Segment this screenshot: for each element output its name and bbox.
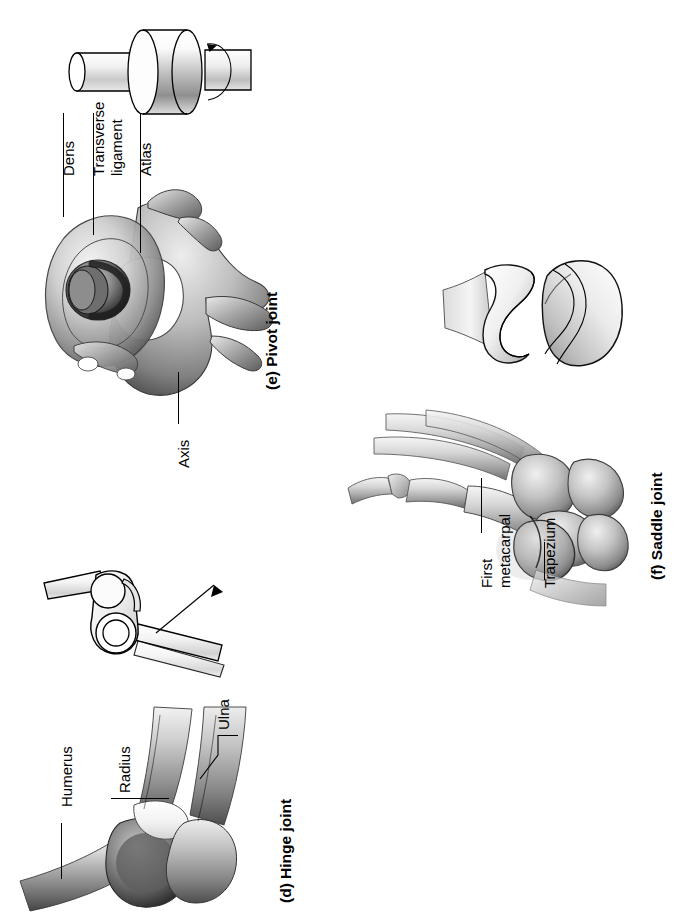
label-first-metacarpal-line1: First bbox=[479, 559, 496, 588]
leader-line-first-metacarpal bbox=[481, 478, 482, 533]
label-transverse-ligament-line1: Transverse bbox=[91, 102, 108, 176]
label-transverse-ligament-line2: ligament bbox=[109, 119, 126, 176]
pivot-specimen-vertebrae bbox=[30, 178, 280, 408]
label-first-metacarpal-line2: metacarpal bbox=[497, 514, 514, 588]
label-axis: Axis bbox=[176, 440, 193, 468]
caption-pivot-joint: (e) Pivot joint bbox=[263, 292, 280, 390]
hinge-schematic bbox=[38, 565, 238, 695]
figure-canvas: Dens Transverse ligament Atlas Axis (e) … bbox=[0, 0, 679, 919]
label-trapezium: Trapezium bbox=[542, 518, 559, 588]
leader-line-ulna-bend bbox=[200, 735, 240, 791]
caption-saddle-joint: (f) Saddle joint bbox=[648, 472, 665, 580]
pivot-schematic bbox=[55, 8, 270, 118]
label-dens: Dens bbox=[61, 141, 78, 176]
label-humerus: Humerus bbox=[59, 746, 76, 807]
saddle-specimen-hand bbox=[330, 410, 630, 625]
label-atlas: Atlas bbox=[138, 143, 155, 176]
leader-line-atlas bbox=[140, 113, 141, 253]
panel-pivot-joint: Dens Transverse ligament Atlas Axis (e) … bbox=[0, 0, 340, 500]
leader-line-axis bbox=[178, 372, 179, 424]
leader-line-humerus bbox=[61, 823, 62, 879]
leader-line-radius bbox=[111, 798, 169, 799]
label-radius: Radius bbox=[117, 746, 134, 793]
caption-hinge-joint: (d) Hinge joint bbox=[277, 799, 294, 903]
saddle-schematic bbox=[435, 228, 645, 403]
label-ulna: Ulna bbox=[216, 699, 233, 730]
panel-saddle-joint: First metacarpal Trapezium (f) Saddle jo… bbox=[330, 220, 679, 690]
panel-hinge-joint: Humerus Radius Ulna (d) Hinge joint bbox=[0, 555, 340, 919]
